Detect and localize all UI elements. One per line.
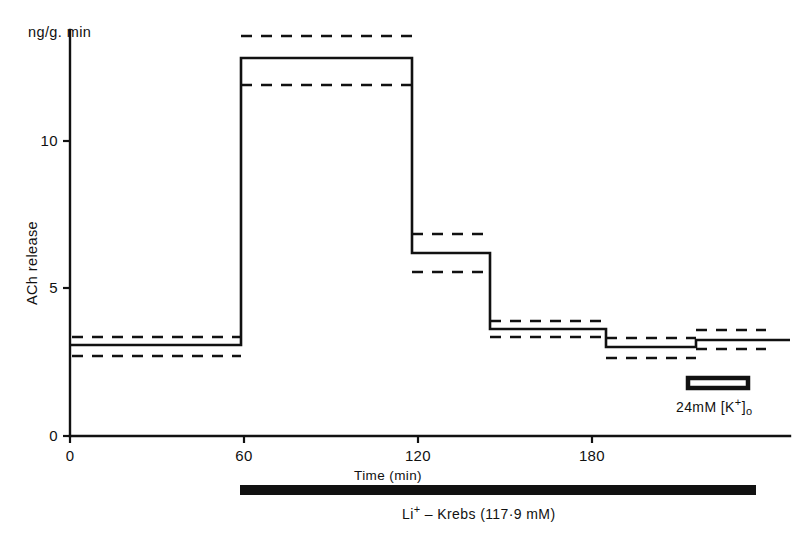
y-tick-label-0: 0 [24, 427, 58, 444]
legend-label: 24mM [K+]o [676, 396, 752, 417]
treatment-bar-li-krebs [240, 485, 756, 495]
x-tick-label-0: 0 [45, 447, 95, 464]
y-tick-label-10: 10 [24, 132, 58, 149]
treatment-label-rest: – Krebs (117·9 mM) [421, 506, 556, 522]
series-lower-limit [72, 85, 766, 358]
treatment-label-charge: + [414, 503, 421, 515]
legend-label-charge: + [735, 396, 742, 408]
y-tick-label-5: 5 [24, 279, 58, 296]
series-mean [70, 58, 790, 347]
x-axis-title: Time (min) [354, 468, 422, 483]
x-tick-label-120: 120 [393, 447, 443, 464]
legend-marker-open-bar [688, 378, 748, 388]
series-upper-limit [72, 36, 766, 338]
y-axis-unit-label: ng/g. min [28, 24, 91, 40]
x-tick-label-60: 60 [219, 447, 269, 464]
x-tick-label-180: 180 [567, 447, 617, 464]
figure-container: ng/g. min ACh release 10 5 0 0 60 120 18… [0, 0, 812, 536]
legend-label-subscript: o [746, 405, 753, 417]
y-axis-title: ACh release [24, 203, 40, 323]
treatment-label: Li+ – Krebs (117·9 mM) [402, 503, 555, 522]
legend-label-conc: 24mM [K [676, 399, 735, 415]
treatment-label-ion: Li [402, 506, 414, 522]
